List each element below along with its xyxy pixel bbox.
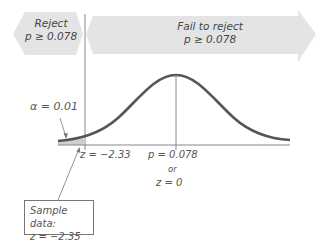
sample-data-box: Sample data: z = −2.35 — [24, 200, 94, 235]
reject-label: Reject — [20, 17, 82, 30]
critical-value-label: z = −2.33 — [80, 149, 131, 160]
center-p-label: p = 0.078 — [148, 149, 198, 160]
center-or-label: or — [168, 164, 177, 174]
fail-to-reject-region-label: Fail to reject p ≥ 0.078 — [150, 20, 270, 46]
alpha-pointer-arrowhead — [64, 133, 69, 139]
sample-pointer-line — [58, 149, 79, 200]
normal-curve — [58, 75, 290, 141]
sample-data-value: z = −2.35 — [30, 230, 93, 243]
center-z-label: z = 0 — [156, 177, 182, 188]
fail-to-reject-label: Fail to reject — [150, 20, 270, 33]
reject-condition: p ≥ 0.078 — [20, 30, 82, 43]
reject-region-label: Reject p ≥ 0.078 — [20, 17, 82, 43]
sample-data-title: Sample data: — [30, 204, 93, 230]
alpha-label: α = 0.01 — [30, 100, 78, 113]
fail-to-reject-condition: p ≥ 0.078 — [150, 33, 270, 46]
